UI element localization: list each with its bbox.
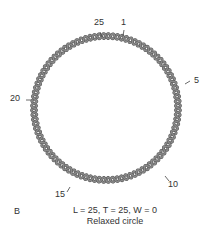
marker-label-20: 20: [10, 94, 20, 103]
relaxed-circle-dna-diagram: [0, 0, 213, 239]
marker-label-15: 15: [55, 190, 65, 199]
marker-ticks: [26, 30, 190, 192]
marker-label-25: 25: [94, 18, 104, 27]
equation-text: L = 25, T = 25, W = 0: [40, 205, 190, 215]
marker-label-10: 10: [168, 180, 178, 189]
marker-label-5: 5: [194, 76, 199, 85]
caption-text: Relaxed circle: [40, 216, 190, 226]
panel-label: B: [14, 206, 20, 216]
marker-label-1: 1: [121, 18, 126, 27]
double-helix-circle: [31, 33, 180, 182]
